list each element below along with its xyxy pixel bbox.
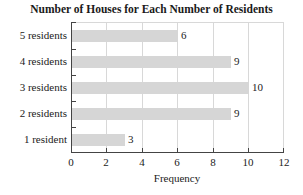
x-tick (106, 148, 107, 153)
data-label: 6 (181, 29, 187, 41)
bar-2-residents (72, 108, 231, 120)
x-tick-label: 2 (103, 156, 109, 168)
y-axis (71, 22, 72, 153)
bar-3-residents (72, 82, 249, 94)
data-label: 9 (234, 55, 240, 67)
x-tick (142, 148, 143, 153)
category-label: 5 residents (20, 29, 67, 41)
y-tick (71, 49, 76, 50)
category-label: 3 residents (20, 81, 67, 93)
x-tick (283, 148, 284, 153)
category-label: 1 resident (24, 133, 67, 145)
category-label: 4 residents (20, 55, 67, 67)
x-tick (248, 148, 249, 153)
data-label: 9 (234, 107, 240, 119)
data-label: 10 (252, 81, 263, 93)
category-label: 2 residents (20, 107, 67, 119)
chart-title: Number of Houses for Each Number of Resi… (0, 3, 303, 15)
x-tick (177, 148, 178, 153)
x-axis-title: Frequency (154, 172, 200, 184)
x-tick-label: 0 (68, 156, 74, 168)
x-tick-label: 12 (279, 156, 290, 168)
x-tick (71, 148, 72, 153)
y-tick (71, 75, 76, 76)
y-tick (71, 22, 76, 23)
x-tick (213, 148, 214, 153)
x-tick-label: 10 (243, 156, 254, 168)
bar-5-residents (72, 30, 178, 42)
x-tick-label: 6 (174, 156, 180, 168)
bar-1-resident (72, 134, 125, 146)
x-tick-label: 4 (139, 156, 145, 168)
data-label: 3 (128, 133, 134, 145)
y-tick (71, 127, 76, 128)
x-tick-label: 8 (210, 156, 216, 168)
bar-4-residents (72, 56, 231, 68)
y-tick (71, 101, 76, 102)
